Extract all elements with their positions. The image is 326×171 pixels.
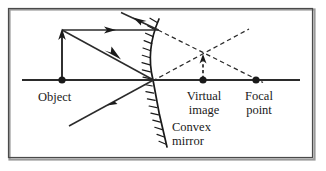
virtual-image-arrow [199,54,206,84]
virtual-image-label-line2: image [189,103,220,117]
convex-mirror-label-line1: Convex [172,120,212,134]
reflected-vertex-ray-line [69,80,154,126]
focal-point-label-line1: Focal [245,89,273,103]
convex-mirror [142,18,167,147]
object-label: Object [38,90,72,104]
virtual-image-label-line1: Virtual [187,89,222,103]
incident-vertex-ray [62,30,154,80]
focal-point-marker [252,76,259,83]
object-base-point [58,76,65,83]
reflected-vertex-ray [69,80,154,126]
convex-mirror-arc [150,19,167,147]
reflected-ray-upper [121,13,159,31]
focal-point-label-line2: point [246,103,272,117]
convex-mirror-label-line2: mirror [172,134,205,148]
virtual-extension-to-focal-point [158,30,263,83]
reflected-ray-upper-head [133,17,147,25]
reflected-vertex-ray-head [107,96,124,105]
convex-mirror-diagram-canvas: Object Virtual image Focal point Convex … [0,0,326,171]
incident-vertex-ray-line [62,30,154,80]
object-arrow [58,29,66,84]
virtual-image-base-point [199,76,206,83]
optics-diagram-figure: Object Virtual image Focal point Convex … [0,0,326,171]
virtual-ray-extensions [153,29,264,83]
incident-parallel-ray [62,27,159,34]
virtual-extension-from-vertex [153,29,250,81]
